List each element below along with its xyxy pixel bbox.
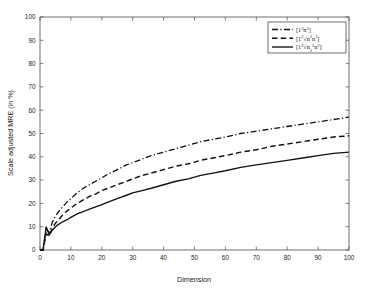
x-tick-label: 100 (344, 254, 355, 261)
x-tick-label: 30 (129, 254, 137, 261)
y-tick-label: 80 (28, 60, 36, 67)
figure-container: 0102030405060708090100 01020304050607080… (0, 0, 369, 293)
y-tick-label: 30 (28, 176, 36, 183)
y-tick-label: 0 (32, 246, 36, 253)
y-tick-label: 50 (28, 130, 36, 137)
x-axis-ticks: 0102030405060708090100 (38, 17, 355, 261)
y-tick-label: 40 (28, 153, 36, 160)
chart-canvas: 0102030405060708090100 01020304050607080… (0, 0, 369, 293)
y-tick-label: 90 (28, 37, 36, 44)
x-tick-label: 90 (315, 254, 323, 261)
x-tick-label: 50 (191, 254, 199, 261)
x-tick-label: 0 (38, 254, 42, 261)
x-axis-title: Dimension (177, 275, 211, 284)
x-tick-label: 40 (160, 254, 168, 261)
series-line-solid (40, 152, 349, 250)
x-tick-label: 10 (67, 254, 75, 261)
y-tick-label: 70 (28, 83, 36, 90)
y-tick-label: 60 (28, 107, 36, 114)
series-line-dash-dot (40, 117, 349, 250)
legend: [12n2] [12√n2n2] [12√n22n2] (268, 22, 346, 53)
y-tick-label: 100 (25, 13, 36, 20)
x-tick-label: 70 (253, 254, 261, 261)
x-tick-label: 60 (222, 254, 230, 261)
x-tick-label: 20 (98, 254, 106, 261)
y-axis-title: Scale adjusted MRE (in %) (6, 90, 15, 176)
y-tick-label: 20 (28, 200, 36, 207)
legend-label-dash-dot: [12n2] (296, 26, 311, 33)
y-tick-label: 10 (28, 223, 36, 230)
x-tick-label: 80 (284, 254, 292, 261)
series-line-dashed (40, 136, 349, 250)
data-curves (40, 117, 349, 250)
